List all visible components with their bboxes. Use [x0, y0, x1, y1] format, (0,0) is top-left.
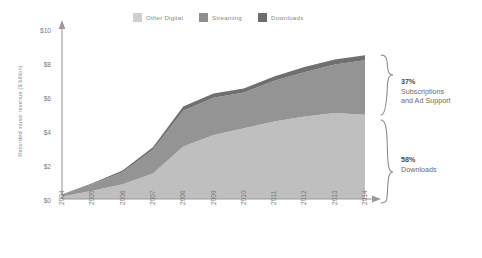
x-tick-2010: 2010	[241, 190, 248, 205]
x-tick-2004: 2004	[59, 190, 66, 205]
annotation-percent-37: 37%	[401, 77, 415, 86]
annotation-subscriptions-and-ad-support: 37% Subscriptions and Ad Support	[401, 77, 451, 106]
x-axis-tick-labels: 2004 2005 2006 2007 2008 2009 2010 2011 …	[0, 0, 482, 258]
annotation-line-subscriptions: Subscriptions	[401, 87, 451, 97]
chart-canvas: Other Digital Streaming Downloads Record…	[0, 0, 482, 258]
x-tick-2005: 2005	[89, 190, 96, 205]
x-tick-2012: 2012	[301, 190, 308, 205]
annotation-percent-58: 58%	[401, 155, 415, 164]
x-tick-2013: 2013	[332, 190, 339, 205]
x-tick-2007: 2007	[150, 190, 157, 205]
annotation-line-downloads: Downloads	[401, 165, 437, 175]
x-tick-2011: 2011	[271, 191, 278, 205]
x-tick-2008: 2008	[180, 190, 187, 205]
x-tick-2006: 2006	[120, 190, 127, 205]
x-tick-2014: 2014	[362, 190, 369, 205]
x-tick-2009: 2009	[211, 190, 218, 205]
annotation-line-ad-support: and Ad Support	[401, 96, 451, 106]
annotation-downloads-share: 58% Downloads	[401, 155, 437, 174]
